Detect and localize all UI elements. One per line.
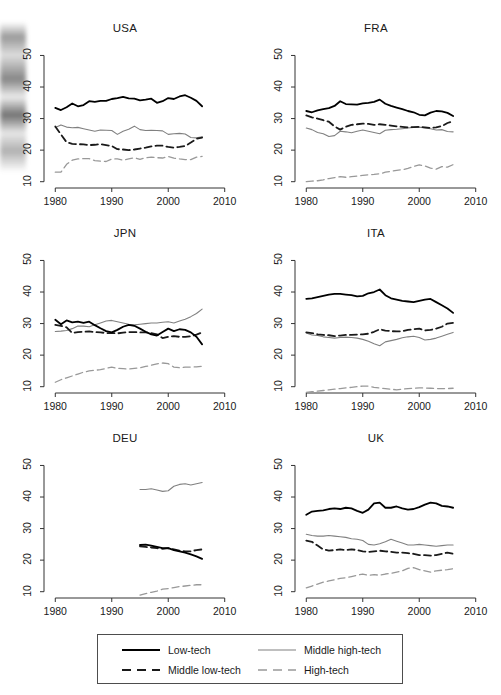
series-line-middle_high_tech: [55, 125, 202, 138]
x-tick-label: 2000: [146, 605, 190, 617]
series-line-low_tech: [306, 290, 453, 313]
y-tick-label: 30: [272, 517, 284, 539]
legend-label-high-tech: High-tech: [304, 664, 349, 676]
series-line-middle_low_tech: [306, 541, 453, 556]
panel-ita: ITA10203040501980199020002010: [251, 227, 501, 435]
y-tick-label: 30: [21, 312, 33, 334]
x-tick-label: 2000: [146, 400, 190, 412]
y-tick-label: 20: [272, 138, 284, 160]
y-tick-label: 40: [272, 280, 284, 302]
y-tick-label: 40: [272, 75, 284, 97]
series-line-high_tech: [306, 165, 453, 182]
legend-label-low-tech: Low-tech: [168, 644, 211, 656]
panel-uk: UK10203040501980199020002010: [251, 432, 501, 640]
y-tick-label: 20: [272, 343, 284, 365]
legend-swatch-low-tech: [120, 645, 162, 655]
legend-swatch-middle-low-tech: [120, 665, 162, 675]
y-tick-label: 10: [21, 375, 33, 397]
chart-legend: Low-tech Middle high-tech Middle low-tec…: [97, 634, 403, 684]
series-line-low_tech: [140, 545, 202, 559]
y-tick-label: 30: [21, 517, 33, 539]
panel-deu: DEU10203040501980199020002010: [0, 432, 250, 640]
y-tick-label: 10: [272, 375, 284, 397]
x-tick-label: 2010: [454, 195, 498, 207]
y-tick-label: 40: [21, 75, 33, 97]
x-tick-label: 1980: [284, 400, 328, 412]
series-line-middle_low_tech: [306, 323, 453, 336]
panel-jpn: JPN10203040501980199020002010: [0, 227, 250, 435]
x-tick-label: 2010: [454, 400, 498, 412]
legend-label-middle-high-tech: Middle high-tech: [304, 644, 381, 656]
y-tick-label: 10: [21, 170, 33, 192]
y-tick-label: 10: [272, 170, 284, 192]
legend-entry-high-tech: High-tech: [256, 664, 349, 676]
series-line-low_tech: [55, 95, 202, 110]
x-tick-label: 1990: [341, 605, 385, 617]
x-tick-label: 2000: [397, 195, 441, 207]
y-tick-label: 10: [21, 580, 33, 602]
x-tick-label: 2010: [203, 605, 247, 617]
x-tick-label: 2010: [203, 195, 247, 207]
x-tick-label: 1980: [284, 195, 328, 207]
legend-entry-middle-high-tech: Middle high-tech: [256, 644, 381, 656]
legend-entry-middle-low-tech: Middle low-tech: [120, 664, 241, 676]
series-line-middle_high_tech: [306, 127, 453, 136]
x-tick-label: 1990: [341, 195, 385, 207]
series-line-high_tech: [306, 568, 453, 588]
panel-grid: USA10203040501980199020002010FRA10203040…: [0, 0, 501, 625]
x-tick-label: 1990: [90, 605, 134, 617]
y-tick-label: 30: [21, 107, 33, 129]
x-tick-label: 2010: [203, 400, 247, 412]
series-line-high_tech: [140, 585, 202, 595]
series-line-middle_low_tech: [306, 115, 453, 129]
series-line-high_tech: [55, 363, 202, 382]
series-line-middle_high_tech: [55, 309, 202, 331]
y-tick-label: 50: [21, 453, 33, 475]
y-tick-label: 40: [272, 485, 284, 507]
x-tick-label: 2000: [397, 605, 441, 617]
x-tick-label: 2010: [454, 605, 498, 617]
legend-swatch-middle-high-tech: [256, 645, 298, 655]
y-tick-label: 50: [272, 453, 284, 475]
y-tick-label: 50: [21, 43, 33, 65]
y-tick-label: 20: [21, 548, 33, 570]
legend-swatch-high-tech: [256, 665, 298, 675]
x-tick-label: 1990: [90, 195, 134, 207]
x-tick-label: 1990: [341, 400, 385, 412]
y-tick-label: 10: [272, 580, 284, 602]
panel-usa: USA10203040501980199020002010: [0, 22, 250, 230]
x-tick-label: 1990: [90, 400, 134, 412]
series-line-high_tech: [306, 386, 453, 392]
x-tick-label: 2000: [397, 400, 441, 412]
y-tick-label: 30: [272, 312, 284, 334]
y-tick-label: 50: [21, 248, 33, 270]
series-line-high_tech: [55, 156, 202, 172]
x-tick-label: 1980: [33, 605, 77, 617]
series-line-middle_high_tech: [140, 483, 202, 492]
y-tick-label: 50: [272, 43, 284, 65]
x-tick-label: 1980: [33, 400, 77, 412]
y-tick-label: 20: [21, 138, 33, 160]
x-tick-label: 1980: [284, 605, 328, 617]
y-tick-label: 20: [21, 343, 33, 365]
figure-root: USA10203040501980199020002010FRA10203040…: [0, 0, 501, 695]
series-line-low_tech: [306, 503, 453, 515]
series-line-middle_high_tech: [306, 534, 453, 546]
series-line-low_tech: [306, 100, 453, 116]
y-tick-label: 40: [21, 485, 33, 507]
y-tick-label: 40: [21, 280, 33, 302]
y-tick-label: 20: [272, 548, 284, 570]
y-tick-label: 30: [272, 107, 284, 129]
series-line-middle_low_tech: [55, 126, 202, 150]
x-tick-label: 2000: [146, 195, 190, 207]
panel-fra: FRA10203040501980199020002010: [251, 22, 501, 230]
y-tick-label: 50: [272, 248, 284, 270]
x-tick-label: 1980: [33, 195, 77, 207]
legend-label-middle-low-tech: Middle low-tech: [168, 664, 241, 676]
legend-entry-low-tech: Low-tech: [120, 644, 211, 656]
